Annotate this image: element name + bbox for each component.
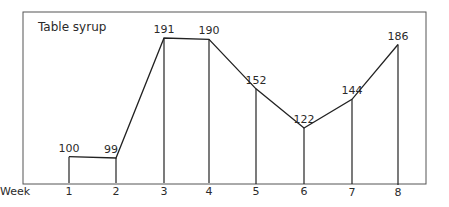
data-label: 186: [388, 30, 409, 43]
x-axis-label: Week: [0, 185, 31, 198]
x-tick-label: 8: [395, 186, 402, 199]
x-tick-label: 4: [206, 185, 213, 198]
data-label: 191: [154, 23, 175, 36]
data-label: 99: [104, 143, 118, 156]
x-tick-label: 5: [253, 185, 260, 198]
data-label: 152: [246, 74, 267, 87]
x-tick-label: 7: [349, 186, 356, 199]
data-label: 190: [199, 24, 220, 37]
data-label: 144: [342, 84, 363, 97]
data-label: 122: [294, 113, 315, 126]
x-tick-label: 2: [113, 185, 120, 198]
line-chart: Table syrup 10099191190152122144186 Week…: [0, 0, 449, 207]
x-tick-labels: 12345678: [66, 185, 402, 199]
drop-lines: [69, 38, 398, 185]
x-tick-label: 1: [66, 185, 73, 198]
x-tick-label: 3: [161, 185, 168, 198]
chart-frame: [23, 12, 426, 184]
x-tick-label: 6: [301, 185, 308, 198]
value-labels: 10099191190152122144186: [59, 23, 409, 156]
series-line: [69, 38, 398, 158]
data-label: 100: [59, 142, 80, 155]
chart-title: Table syrup: [37, 20, 106, 34]
